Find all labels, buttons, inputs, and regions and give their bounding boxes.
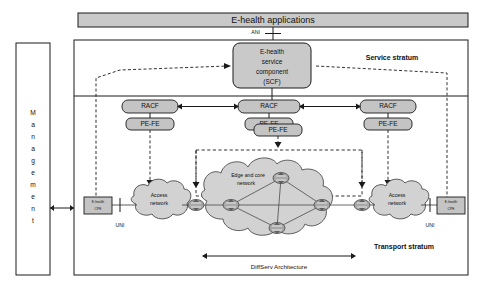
ani-connector: ANI (251, 27, 281, 40)
cloud-core-line-2: network (237, 180, 256, 186)
cpe-left-line-2: CPE (95, 207, 103, 211)
cloud-core-line-1: Edge and core (231, 172, 265, 178)
e-health-service-component[interactable]: E-health service component (SCF) (233, 43, 311, 88)
uni-right-label: UNI (426, 222, 435, 228)
pefe-right-label: PE-FE (378, 120, 398, 127)
cloud-access-right-line-2: network (388, 200, 407, 206)
racf-right[interactable]: RACF (360, 100, 416, 113)
diffserv-label: DiffServ Architecture (251, 263, 308, 270)
router-edge-left (188, 199, 204, 211)
management-letter: t (32, 217, 34, 224)
management-letter: e (31, 169, 35, 176)
cloud-access-left: Access network (131, 179, 191, 219)
management-letter: e (31, 193, 35, 200)
management-letter: a (31, 145, 35, 152)
top-bar-label: E-health applications (231, 15, 315, 25)
management-letter: n (31, 205, 35, 212)
uni-left-label: UNI (116, 222, 125, 228)
router-core-east (314, 199, 330, 211)
scf-line-3: component (256, 68, 288, 76)
racf-center-label: RACF (260, 102, 278, 109)
management-letter: a (31, 121, 35, 128)
cloud-access-left-line-1: Access (151, 192, 168, 198)
management-panel: M a n a g e m e n t (16, 43, 50, 275)
top-application-bar: E-health applications (78, 13, 468, 27)
management-letter: g (31, 157, 35, 165)
racf-left[interactable]: RACF (122, 100, 178, 113)
management-letter: M (30, 109, 36, 116)
pefe-left-label: PE-FE (140, 120, 160, 127)
router-core-north (273, 172, 289, 184)
cloud-access-left-line-2: network (150, 200, 169, 206)
scf-line-2: service (262, 58, 283, 65)
cloud-access-right: Access network (369, 179, 429, 219)
pefe-center-front[interactable]: PE-FE (254, 124, 302, 136)
racf-left-label: RACF (141, 102, 159, 109)
scf-line-4: (SCF) (263, 78, 280, 86)
cpe-right-line-2: CPE (448, 207, 456, 211)
router-core-west (223, 199, 239, 211)
cloud-access-right-line-1: Access (389, 192, 406, 198)
router-core-south (269, 222, 285, 234)
management-letter: n (31, 133, 35, 140)
cpe-right-line-1: E-health (445, 200, 457, 204)
management-link-arrow (50, 205, 74, 211)
cpe-left-line-1: E-health (92, 200, 104, 204)
racf-right-label: RACF (379, 102, 397, 109)
racf-center[interactable]: RACF (238, 100, 300, 113)
ani-label: ANI (251, 29, 260, 35)
router-edge-right (354, 199, 370, 211)
service-stratum-label: Service stratum (366, 54, 419, 61)
scf-line-1: E-health (260, 48, 285, 55)
diagram-canvas: E-health applications ANI M a n a g e m … (0, 0, 483, 290)
management-letter: m (30, 181, 36, 188)
transport-stratum-label: Transport stratum (374, 243, 434, 251)
pefe-center-front-label: PE-FE (268, 126, 288, 133)
